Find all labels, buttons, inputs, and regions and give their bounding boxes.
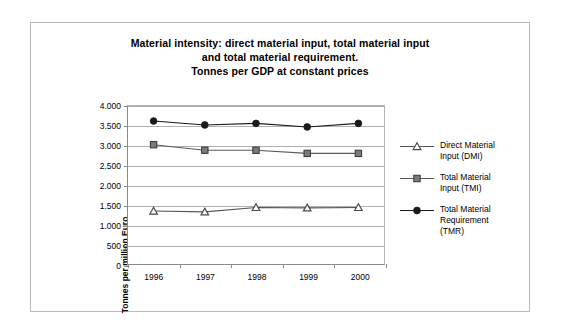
x-axis-tick [128,264,129,268]
legend-label-line: Input (TMI) [440,183,526,194]
y-axis-tick-label: 500 [107,241,121,251]
x-axis-tick [231,264,232,268]
chart-title-line-1: Material intensity: direct material inpu… [60,36,500,50]
legend-entry[interactable]: Total MaterialRequirement(TMR) [398,204,526,237]
y-axis-tick-label: 0 [116,261,121,271]
legend-label-line: Requirement [440,215,526,226]
legend-label-line: Total Material [440,172,526,183]
chart-title: Material intensity: direct material inpu… [60,36,500,78]
data-point-circle [304,124,311,131]
y-axis-tick-label: 3.000 [100,141,121,151]
legend-marker-triangle-icon [398,141,436,152]
y-axis-tick-label: 3.500 [100,121,121,131]
x-axis-tick [334,264,335,268]
x-axis-tick-label: 1996 [144,272,163,282]
y-axis-tick-label: 1.500 [100,201,121,211]
plot-area: 05001.0001.5002.0002.5003.0003.5004.000 … [127,105,385,265]
data-point-circle [355,120,362,127]
data-point-circle [253,120,260,127]
legend-marker-circle-icon [398,205,436,216]
x-axis-tick-label: 1998 [248,272,267,282]
data-point-square [304,150,310,156]
data-point-square [414,175,420,181]
data-point-square [150,142,156,148]
x-axis-tick-label: 1999 [299,272,318,282]
chart-title-line-3: Tonnes per GDP at constant prices [60,64,500,78]
x-axis-tick [180,264,181,268]
legend-label-line: Input (DMI) [440,151,526,162]
legend-label-line: Total Material [440,204,526,215]
legend-marker-square-icon [398,173,436,184]
y-axis-tick-label: 2.000 [100,181,121,191]
chart-title-line-2: and total material requirement. [60,50,500,64]
legend-label-line: Direct Material [440,140,526,151]
chart-legend: Direct MaterialInput (DMI)Total Material… [398,140,526,247]
chart-figure: Material intensity: direct material inpu… [0,0,562,330]
series-plot [128,106,384,264]
y-axis-tick-label: 2.500 [100,161,121,171]
x-axis-tick [386,264,387,268]
x-axis-tick-label: 1997 [196,272,215,282]
legend-entry[interactable]: Direct MaterialInput (DMI) [398,140,526,162]
x-axis-tick-label: 2000 [351,272,370,282]
y-axis-tick-label: 4.000 [100,101,121,111]
data-point-square [253,147,259,153]
data-point-circle [414,207,421,214]
data-point-square [202,147,208,153]
legend-label-line: (TMR) [440,226,526,237]
data-point-square [355,150,361,156]
data-point-circle [150,118,157,125]
y-axis-title-wrapper: Tonnes per million Euro [56,110,72,270]
y-axis-tick-label: 1.000 [100,221,121,231]
legend-entry[interactable]: Total MaterialInput (TMI) [398,172,526,194]
data-point-circle [201,122,208,129]
x-axis-tick [283,264,284,268]
